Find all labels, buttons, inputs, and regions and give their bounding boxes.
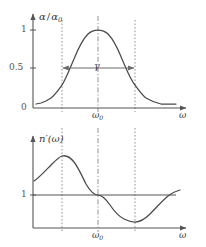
absorption-ylabel-alpha: α [39, 11, 46, 22]
absorption-ylabel: α/α0 [39, 11, 62, 24]
absorption-xtick-subscript: 0 [99, 114, 103, 121]
optics-dispersion-figure [0, 0, 206, 247]
absorption-panel [30, 14, 186, 108]
absorption-ylabel-alpha0: α [51, 11, 58, 22]
dispersion-ytick-label-1: 1 [21, 189, 27, 199]
fwhm-label: γ [94, 60, 100, 71]
guide-lines [62, 16, 135, 232]
absorption-ytick-label-half: 0.5 [9, 62, 23, 72]
absorption-ytick-label-1: 1 [21, 24, 27, 34]
absorption-ylabel-subscript: 0 [58, 16, 62, 24]
dispersion-panel [30, 136, 186, 228]
dispersion-xtick-label-omega0: ω0 [92, 230, 103, 241]
dispersion-xlabel: ω [179, 230, 186, 240]
absorption-xtick-label-omega0: ω0 [92, 110, 103, 121]
absorption-xlabel: ω [179, 110, 186, 120]
dispersion-curve [34, 156, 180, 222]
absorption-curve [36, 30, 176, 104]
absorption-ytick-label-0: 0 [21, 102, 27, 112]
dispersion-ylabel: n′(ω) [39, 133, 64, 144]
dispersion-xtick-subscript: 0 [99, 234, 103, 241]
